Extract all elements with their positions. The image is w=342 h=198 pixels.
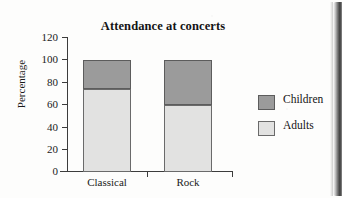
y-tick-80 [62,82,68,83]
chart-page: Attendance at concerts Percentage 120 10… [0,0,342,198]
y-tick-120 [62,37,68,38]
x-category-label-rock: Rock [148,176,228,188]
y-tick-label-100: 100 [32,53,58,65]
legend-swatch-children-icon [258,95,275,110]
chart-title: Attendance at concerts [78,19,248,34]
bar-rock-children-segment [164,60,212,105]
y-tick-label-120: 120 [32,31,58,43]
y-tick-label-80: 80 [32,76,58,88]
bar-classical-children-segment [83,60,131,89]
y-tick-label-0: 0 [32,165,58,177]
legend-label-children: Children [283,93,323,105]
y-tick-label-60: 60 [32,98,58,110]
y-tick-0 [62,171,68,172]
page-edge-artifact [333,2,342,196]
bar-classical-adults-segment [83,89,131,172]
y-tick-60 [62,104,68,105]
legend-swatch-adults-icon [258,121,275,136]
y-tick-20 [62,149,68,150]
bar-rock [164,60,212,172]
bar-classical [83,60,131,172]
y-axis-title: Percentage [15,39,27,129]
x-tick-end [232,172,233,177]
y-axis-tick-labels: 120 100 80 60 40 20 0 [30,0,58,198]
y-tick-40 [62,127,68,128]
bar-rock-adults-segment [164,105,212,172]
y-tick-label-20: 20 [32,143,58,155]
x-category-label-classical: Classical [67,176,147,188]
y-tick-label-40: 40 [32,121,58,133]
y-tick-100 [62,59,68,60]
legend-label-adults: Adults [283,119,314,131]
